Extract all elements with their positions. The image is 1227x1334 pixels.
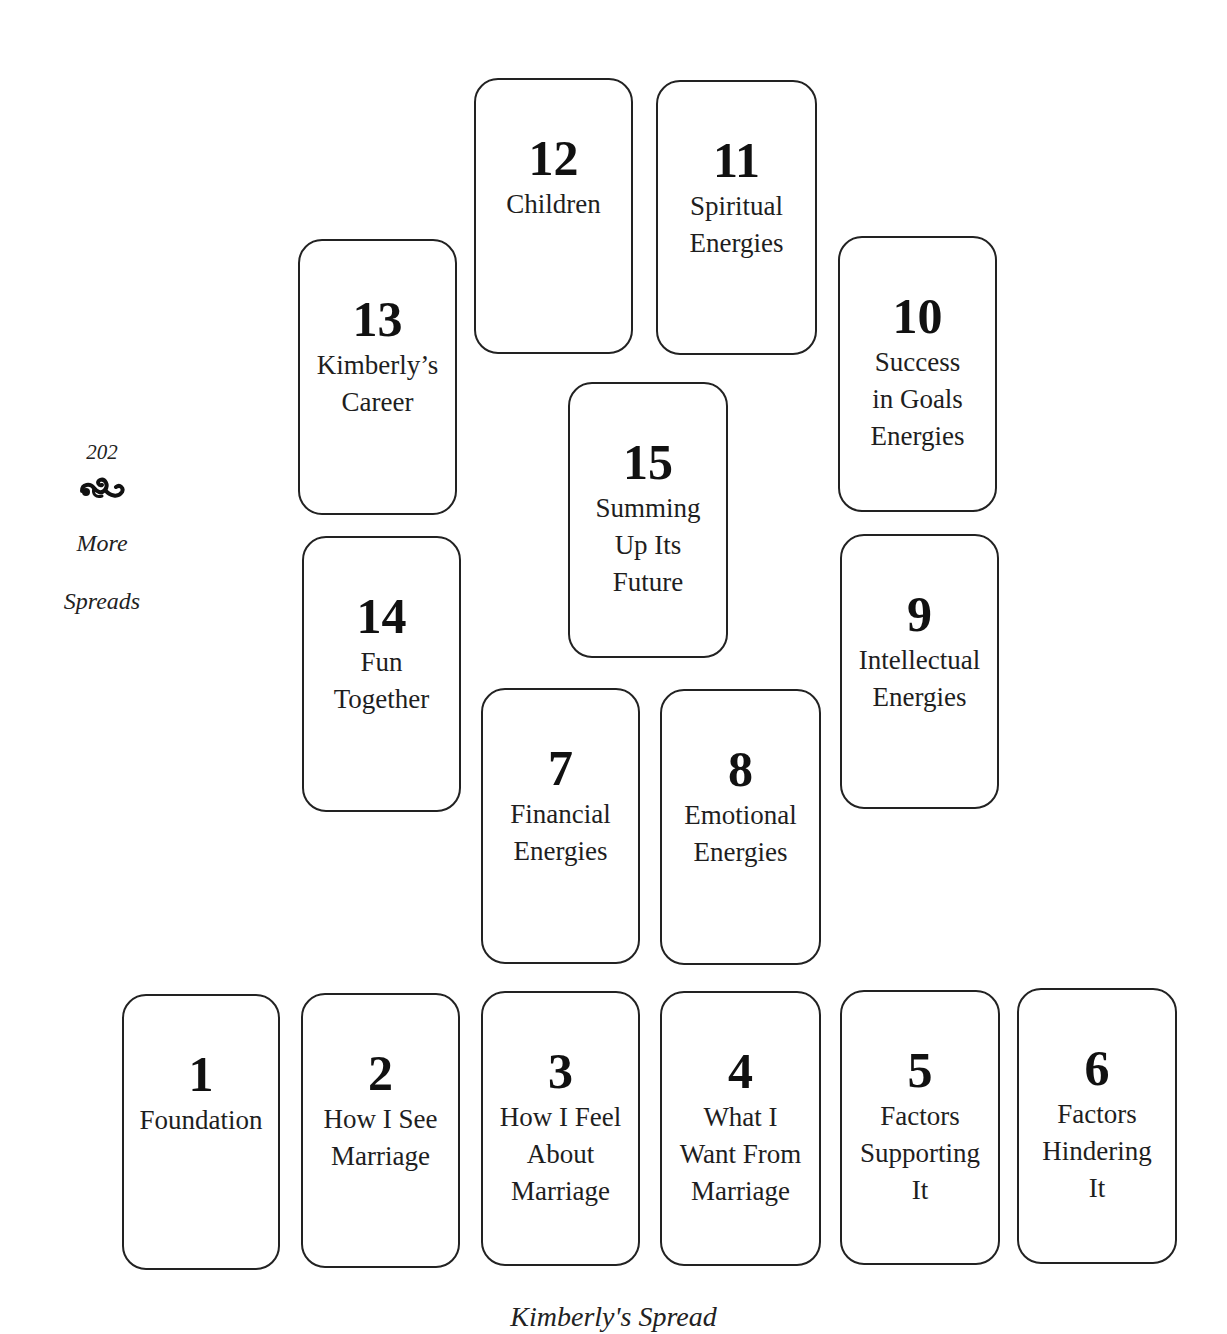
card-position-2: 2How I See Marriage	[301, 993, 460, 1268]
section-title: More Spreads	[48, 514, 156, 630]
card-position-14: 14Fun Together	[302, 536, 461, 812]
page-margin-header: 202 More Spreads	[48, 430, 156, 630]
card-label: How I Feel About Marriage	[487, 1099, 634, 1210]
card-label: Children	[480, 186, 627, 223]
card-number: 9	[842, 586, 997, 642]
card-number: 15	[570, 434, 726, 490]
card-number: 5	[842, 1042, 998, 1098]
card-position-11: 11Spiritual Energies	[656, 80, 817, 355]
card-number: 10	[840, 288, 995, 344]
card-label: Financial Energies	[487, 796, 634, 870]
card-label: Fun Together	[308, 644, 455, 718]
card-number: 7	[483, 740, 638, 796]
card-number: 8	[662, 741, 819, 797]
card-position-9: 9Intellectual Energies	[840, 534, 999, 809]
card-number: 2	[303, 1045, 458, 1101]
card-number: 14	[304, 588, 459, 644]
card-label: Kimberly’s Career	[304, 347, 451, 421]
card-position-10: 10Success in Goals Energies	[838, 236, 997, 512]
card-label: Summing Up Its Future	[574, 490, 722, 601]
card-position-5: 5Factors Supporting It	[840, 990, 1000, 1265]
card-label: Factors Hindering It	[1023, 1096, 1171, 1207]
card-number: 13	[300, 291, 455, 347]
card-position-12: 12Children	[474, 78, 633, 354]
card-position-4: 4What I Want From Marriage	[660, 991, 821, 1266]
fleuron-ornament-icon	[48, 474, 156, 514]
card-position-6: 6Factors Hindering It	[1017, 988, 1177, 1264]
card-number: 1	[124, 1046, 278, 1102]
card-label: What I Want From Marriage	[666, 1099, 815, 1210]
card-label: Emotional Energies	[666, 797, 815, 871]
card-position-3: 3How I Feel About Marriage	[481, 991, 640, 1266]
card-number: 6	[1019, 1040, 1175, 1096]
card-number: 3	[483, 1043, 638, 1099]
card-label: How I See Marriage	[307, 1101, 454, 1175]
card-number: 11	[658, 132, 815, 188]
card-number: 12	[476, 130, 631, 186]
card-label: Foundation	[128, 1102, 274, 1139]
card-position-8: 8Emotional Energies	[660, 689, 821, 965]
card-position-7: 7Financial Energies	[481, 688, 640, 964]
card-label: Spiritual Energies	[662, 188, 811, 262]
card-number: 4	[662, 1043, 819, 1099]
page-number: 202	[48, 430, 156, 474]
figure-caption: Kimberly's Spread	[0, 1300, 1227, 1334]
card-position-15: 15Summing Up Its Future	[568, 382, 728, 658]
card-label: Success in Goals Energies	[844, 344, 991, 455]
card-position-13: 13Kimberly’s Career	[298, 239, 457, 515]
card-label: Intellectual Energies	[846, 642, 993, 716]
card-position-1: 1Foundation	[122, 994, 280, 1270]
card-label: Factors Supporting It	[846, 1098, 994, 1209]
